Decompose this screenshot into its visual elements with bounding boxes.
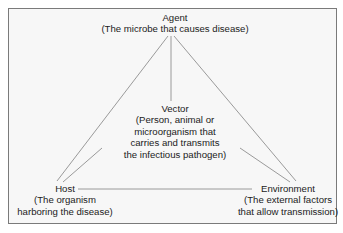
agent-title: Agent xyxy=(90,12,260,23)
environment-title: Environment xyxy=(226,183,343,194)
host-title: Host xyxy=(6,183,124,194)
host-desc-line-1: (The organism xyxy=(6,194,124,205)
vector-desc-line-4: the infectious pathogen) xyxy=(100,149,250,160)
node-environment: Environment (The external factors that a… xyxy=(226,183,343,217)
node-agent: Agent (The microbe that causes disease) xyxy=(90,12,260,35)
host-desc-line-2: harboring the disease) xyxy=(6,206,124,217)
node-vector: Vector (Person, animal or microorganism … xyxy=(100,103,250,160)
node-host: Host (The organism harboring the disease… xyxy=(6,183,124,217)
vector-desc-line-3: carries and transmits xyxy=(100,137,250,148)
vector-desc-line-2: microorganism that xyxy=(100,126,250,137)
agent-desc: (The microbe that causes disease) xyxy=(90,23,260,34)
vector-desc-line-1: (Person, animal or xyxy=(100,114,250,125)
environment-desc-line-1: (The external factors xyxy=(226,194,343,205)
vector-title: Vector xyxy=(100,103,250,114)
environment-desc-line-2: that allow transmission) xyxy=(226,206,343,217)
